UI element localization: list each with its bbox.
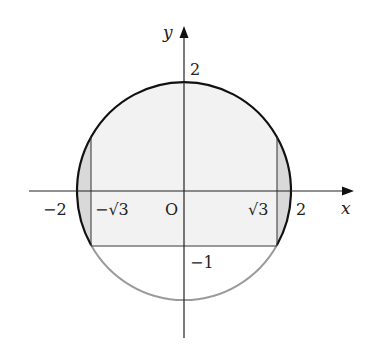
y-axis-label: y <box>162 22 173 42</box>
tick-label-y-neg-1: −1 <box>190 253 214 272</box>
tick-label-x-neg-sqrt3: −√3 <box>95 200 129 219</box>
x-axis-label: x <box>341 198 351 218</box>
origin-label: O <box>165 200 178 219</box>
x-axis-arrow-icon <box>342 187 354 196</box>
tick-label-x-neg-2: −2 <box>43 200 67 219</box>
tick-label-y-2: 2 <box>190 60 200 79</box>
diagram-canvas: y 2 −2 −√3 O √3 2 x −1 <box>0 0 373 355</box>
circle-region-diagram: y 2 −2 −√3 O √3 2 x −1 <box>0 0 373 355</box>
tick-label-x-sqrt3: √3 <box>248 200 268 219</box>
tick-label-x-2: 2 <box>296 200 306 219</box>
y-axis-arrow-icon <box>180 26 189 38</box>
